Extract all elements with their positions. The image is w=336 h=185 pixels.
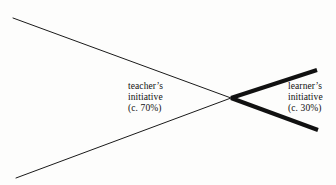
teacher-initiative-wedge bbox=[13, 18, 231, 178]
teacher-label-noun: initiative bbox=[128, 92, 163, 103]
teacher-lower-line bbox=[16, 98, 231, 178]
teacher-initiative-label: teacher’s initiative (c. 70%) bbox=[128, 81, 163, 113]
learner-label-noun: initiative bbox=[288, 92, 323, 103]
learner-initiative-label: learner’s initiative (c. 30%) bbox=[288, 81, 323, 113]
teacher-label-share: (c. 70%) bbox=[128, 103, 163, 114]
diagram-canvas bbox=[0, 0, 336, 185]
initiative-diagram-figure: teacher’s initiative (c. 70%) learner’s … bbox=[0, 0, 336, 185]
learner-label-name: learner’s bbox=[288, 81, 323, 92]
teacher-label-name: teacher’s bbox=[128, 81, 163, 92]
teacher-upper-line bbox=[13, 18, 231, 98]
learner-label-share: (c. 30%) bbox=[288, 103, 323, 114]
